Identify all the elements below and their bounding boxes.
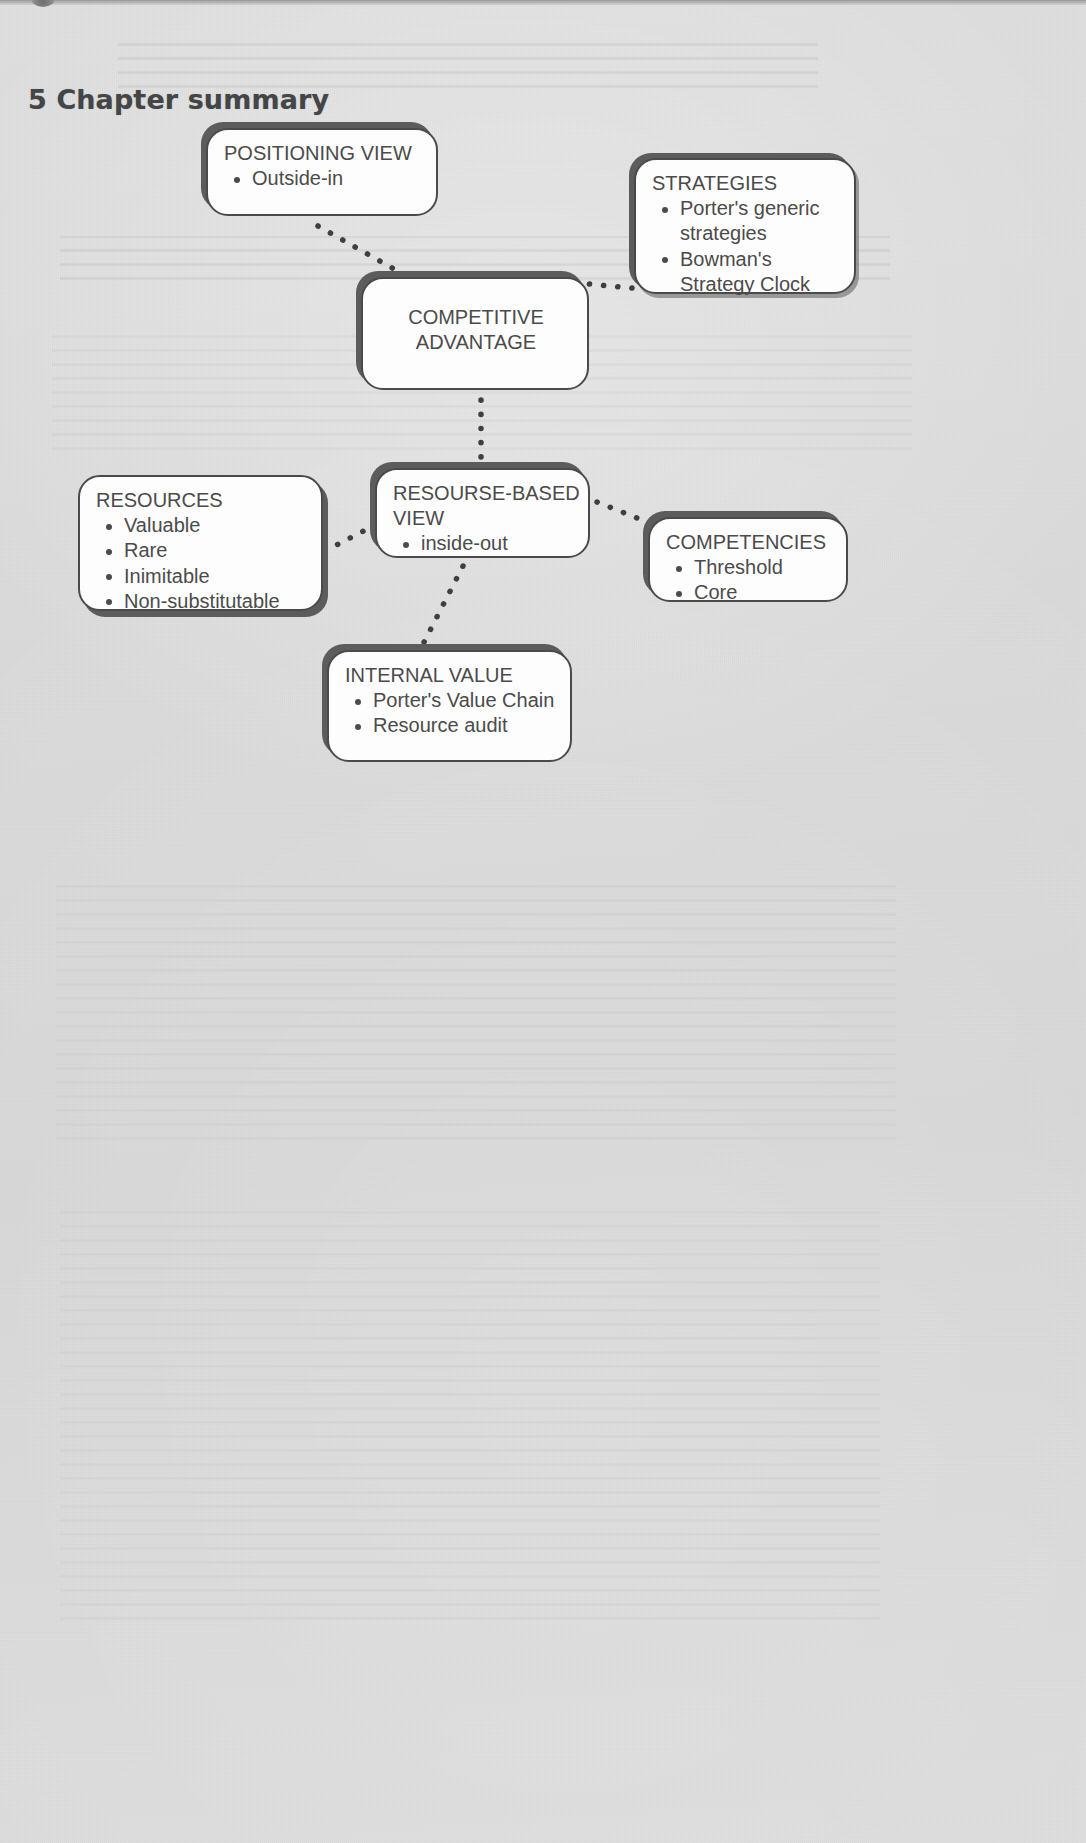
node-title: RESOURCES	[96, 488, 307, 513]
node-item-list: Porter's Value Chain Resource audit	[345, 688, 556, 738]
node-item-list: inside-out	[393, 531, 574, 556]
bleed-through-text-lower	[56, 880, 896, 1140]
list-item: Resource audit	[371, 713, 556, 738]
node-title-line-1: RESOURSE-BASED	[393, 481, 574, 506]
list-item: Inimitable	[122, 564, 307, 589]
node-title: STRATEGIES	[652, 171, 840, 196]
node-internal-value[interactable]: INTERNAL VALUE Porter's Value Chain Reso…	[327, 650, 572, 762]
list-item: Threshold	[692, 555, 832, 580]
list-item: inside-out	[419, 531, 574, 556]
node-resources[interactable]: RESOURCES Valuable Rare Inimitable Non-s…	[78, 475, 323, 611]
node-title: COMPETENCIES	[666, 530, 832, 555]
node-item-list: Valuable Rare Inimitable Non-substitutab…	[96, 513, 307, 614]
connector-resources-to-rbv	[325, 524, 377, 551]
list-item: Rare	[122, 538, 307, 563]
node-title-line-1: COMPETITIVE	[379, 305, 573, 330]
connector-positioning-to-competitive	[318, 226, 410, 278]
node-title-line-2: ADVANTAGE	[379, 330, 573, 355]
node-resourse-based-view[interactable]: RESOURSE-BASED VIEW inside-out	[375, 468, 590, 558]
connector-rbv-to-internal	[420, 566, 463, 650]
node-competitive-advantage[interactable]: COMPETITIVE ADVANTAGE	[361, 277, 589, 390]
node-title: INTERNAL VALUE	[345, 663, 556, 688]
chapter-summary-diagram: POSITIONING VIEW Outside-in STRATEGIES P…	[0, 0, 1086, 820]
node-title-line-2: VIEW	[393, 506, 574, 531]
node-item-list: Porter's generic strategies Bowman's Str…	[652, 196, 840, 297]
node-strategies[interactable]: STRATEGIES Porter's generic strategies B…	[634, 158, 856, 294]
node-item-list: Threshold Core	[666, 555, 832, 605]
list-item: Valuable	[122, 513, 307, 538]
list-item: Porter's Value Chain	[371, 688, 556, 713]
list-item: Non-substitutable	[122, 589, 307, 614]
list-item: Bowman's Strategy Clock	[678, 247, 840, 297]
node-item-list: Outside-in	[224, 166, 422, 191]
bleed-through-text-bottom	[60, 1200, 880, 1620]
node-positioning-view[interactable]: POSITIONING VIEW Outside-in	[206, 128, 438, 216]
node-competencies[interactable]: COMPETENCIES Threshold Core	[648, 517, 848, 602]
list-item: Core	[692, 580, 832, 605]
list-item: Porter's generic strategies	[678, 196, 840, 246]
list-item: Outside-in	[250, 166, 422, 191]
node-title: POSITIONING VIEW	[224, 141, 422, 166]
scanned-page: 5 Chapter summary POSITIONING VIEW	[0, 0, 1086, 1843]
